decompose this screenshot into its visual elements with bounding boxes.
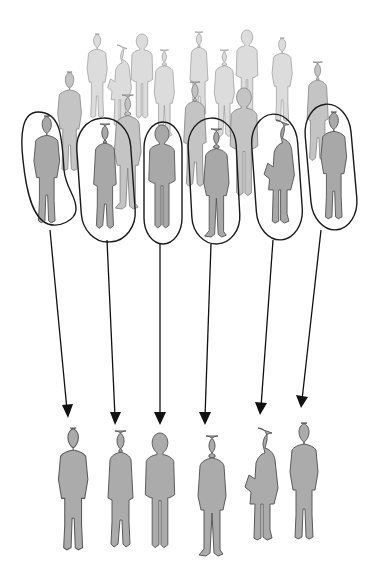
selected-person-5: [264, 120, 294, 223]
sample-person-2: [108, 431, 133, 547]
selected-person-3: [149, 125, 175, 228]
arrowhead-2: [110, 412, 121, 425]
diagram-canvas: [0, 0, 368, 588]
selected-person-2: [94, 124, 117, 228]
selection-arrows: [50, 230, 321, 425]
arrow-1: [50, 230, 67, 410]
arrow-2: [107, 240, 115, 417]
arrowhead-1: [62, 404, 73, 418]
selected-person-1: [34, 116, 60, 223]
sample-person-4: [198, 436, 226, 556]
arrowhead-3: [154, 412, 166, 425]
selected-person-4: [204, 129, 229, 237]
arrowhead-6: [296, 395, 308, 408]
sample-person-3: [145, 433, 174, 548]
arrowhead-5: [255, 402, 267, 415]
sample-person-5: [245, 428, 278, 540]
arrow-4: [205, 244, 211, 417]
sample-person-1: [58, 428, 87, 550]
sampling-diagram: Sampling from a population: [0, 0, 368, 588]
sample-row: [58, 423, 318, 556]
sample-person-6: [290, 423, 318, 539]
arrow-6: [302, 230, 321, 400]
arrowhead-4: [199, 412, 211, 425]
arrow-5: [261, 240, 273, 407]
